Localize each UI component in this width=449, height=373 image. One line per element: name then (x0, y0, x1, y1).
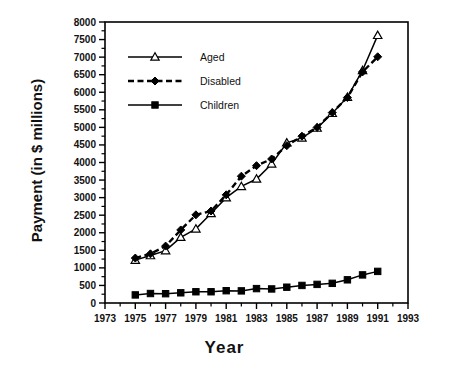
data-point-aged (374, 31, 382, 38)
y-tick-label: 5000 (74, 122, 97, 133)
y-tick-label: 6500 (74, 69, 97, 80)
data-point-children (208, 289, 214, 295)
chart-container: Payment (in $ millions) Year 05001000150… (0, 0, 449, 373)
y-tick-label: 6000 (74, 87, 97, 98)
x-tick-label: 1991 (367, 313, 390, 324)
legend-marker-disabled (151, 77, 159, 85)
data-point-children (132, 292, 138, 298)
legend-label-disabled: Disabled (200, 75, 241, 87)
data-point-disabled (268, 155, 276, 163)
y-tick-label: 500 (79, 280, 96, 291)
data-point-children (314, 281, 320, 287)
y-tick-label: 3500 (74, 175, 97, 186)
x-tick-label: 1993 (397, 313, 420, 324)
x-tick-label: 1979 (185, 313, 208, 324)
data-point-children (178, 290, 184, 296)
y-tick-label: 4500 (74, 139, 97, 150)
y-tick-label: 4000 (74, 157, 97, 168)
data-point-children (359, 272, 365, 278)
x-tick-label: 1985 (276, 313, 299, 324)
y-tick-label: 2000 (74, 227, 97, 238)
data-point-children (344, 277, 350, 283)
y-tick-label: 2500 (74, 210, 97, 221)
y-tick-label: 8000 (74, 17, 97, 28)
data-point-children (238, 288, 244, 294)
y-tick-label: 0 (90, 298, 96, 309)
x-tick-label: 1989 (336, 313, 359, 324)
x-tick-label: 1977 (154, 313, 177, 324)
legend-label-aged: Aged (200, 51, 225, 63)
x-tick-label: 1975 (124, 313, 147, 324)
y-tick-label: 7500 (74, 34, 97, 45)
x-tick-label: 1987 (306, 313, 329, 324)
y-tick-label: 7000 (74, 52, 97, 63)
data-point-children (193, 289, 199, 295)
legend-marker-children (152, 102, 158, 108)
y-tick-label: 5500 (74, 104, 97, 115)
x-tick-label: 1983 (245, 313, 268, 324)
data-point-children (162, 290, 168, 296)
legend-label-children: Children (200, 99, 239, 111)
plot-svg: 0500100015002000250030003500400045005000… (0, 0, 449, 373)
data-point-children (268, 286, 274, 292)
series-line-disabled (135, 57, 377, 258)
y-tick-label: 1000 (74, 262, 97, 273)
data-point-children (147, 290, 153, 296)
data-point-aged (237, 182, 245, 189)
data-point-children (253, 285, 259, 291)
data-point-children (284, 284, 290, 290)
data-point-children (299, 282, 305, 288)
data-point-children (329, 280, 335, 286)
x-tick-label: 1981 (215, 313, 238, 324)
data-point-children (223, 288, 229, 294)
y-tick-label: 1500 (74, 245, 97, 256)
data-point-children (375, 268, 381, 274)
series-line-aged (135, 35, 377, 260)
y-tick-label: 3000 (74, 192, 97, 203)
x-tick-label: 1973 (94, 313, 117, 324)
